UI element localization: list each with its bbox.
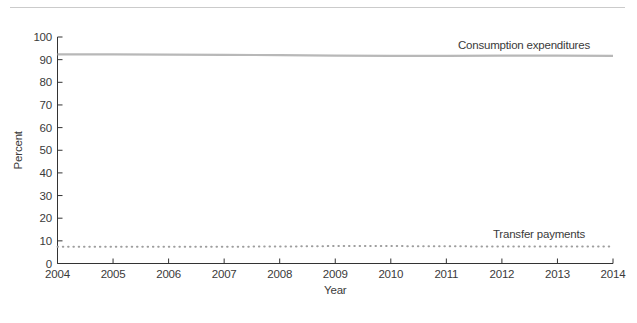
chart-canvas: 0102030405060708090100200420052006200720… [0,0,637,323]
y-tick-label: 80 [40,76,52,88]
x-tick-label: 2009 [323,268,348,280]
series-line-solid [58,54,614,55]
x-tick-label: 2012 [490,268,515,280]
x-tick-label: 2004 [45,268,71,280]
x-tick-label: 2013 [545,268,570,280]
x-tick-label: 2005 [101,268,126,280]
y-tick-label: 50 [40,144,52,156]
chart-page: 0102030405060708090100200420052006200720… [0,0,637,323]
x-axis-title: Year [324,284,347,296]
y-tick-label: 60 [40,122,52,134]
x-tick-label: 2010 [378,268,403,280]
x-tick-label: 2011 [434,268,458,280]
x-tick-label: 2008 [267,268,292,280]
x-tick-label: 2007 [212,268,237,280]
y-tick-label: 30 [40,190,52,202]
series-label: Transfer payments [493,228,585,240]
series-label: Consumption expenditures [458,39,590,51]
y-tick-label: 100 [33,31,52,43]
y-axis-title: Percent [12,130,24,169]
y-tick-label: 40 [40,167,52,179]
y-tick-label: 20 [40,212,52,224]
series-line-dotted [58,246,614,247]
y-tick-label: 70 [40,99,52,111]
x-tick-label: 2006 [156,268,181,280]
x-tick-label: 2014 [601,268,627,280]
y-tick-label: 90 [40,54,52,66]
line-chart: 0102030405060708090100200420052006200720… [0,0,637,323]
y-tick-label: 10 [40,235,52,247]
